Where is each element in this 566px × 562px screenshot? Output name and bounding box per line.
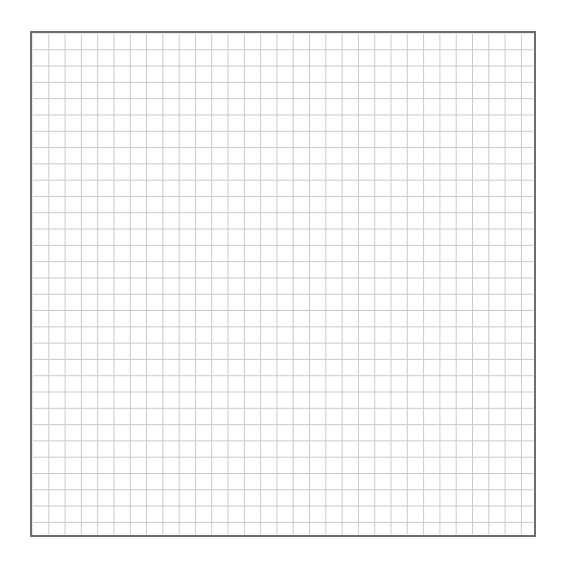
grid-surface	[32, 33, 534, 535]
graph-paper-panel	[30, 31, 536, 537]
page-canvas	[0, 0, 566, 562]
